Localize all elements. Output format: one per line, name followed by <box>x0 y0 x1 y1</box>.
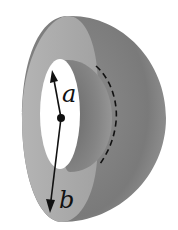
label-a: a <box>62 80 76 108</box>
spherical-shell-diagram: a b <box>0 0 178 230</box>
label-b: b <box>59 186 74 214</box>
